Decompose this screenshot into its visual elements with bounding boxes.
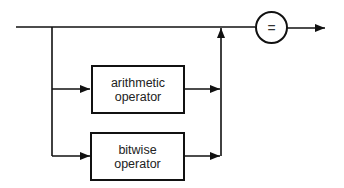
equals-symbol: = [267,20,275,36]
equals-terminal: = [255,11,288,44]
bitwise-operator-box: bitwise operator [90,132,185,181]
box-label-line2: operator [115,90,162,104]
syntax-diagram: arithmetic operator bitwise operator = [0,0,344,188]
arithmetic-operator-box: arithmetic operator [91,65,185,114]
box-label-line2: operator [114,157,161,171]
box-label-line1: bitwise [118,143,156,157]
box-label-line1: arithmetic [111,76,165,90]
